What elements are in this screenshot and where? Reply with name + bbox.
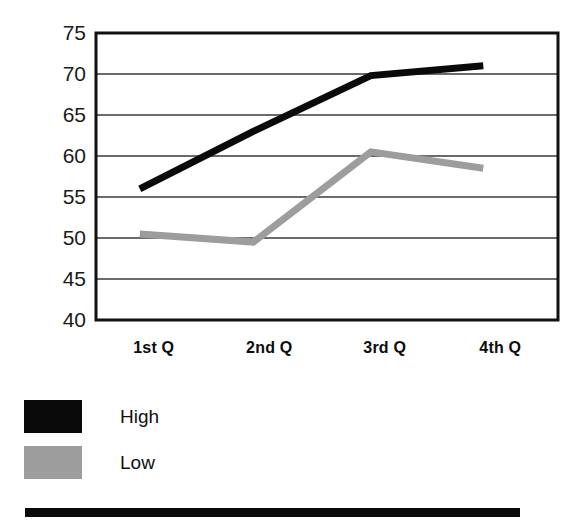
x-tick-2nd-q: 2nd Q bbox=[212, 337, 328, 365]
chart-legend: High Low bbox=[24, 393, 324, 485]
legend-swatch-high-icon bbox=[24, 400, 82, 433]
legend-swatch-low-icon bbox=[24, 446, 82, 479]
legend-label-high: High bbox=[120, 407, 159, 426]
legend-item-high: High bbox=[24, 393, 324, 439]
x-tick-1st-q: 1st Q bbox=[96, 337, 212, 365]
x-tick-3rd-q: 3rd Q bbox=[327, 337, 443, 365]
chart-figure: 75 70 65 60 55 50 45 40 1st Q 2nd Q 3rd … bbox=[0, 0, 588, 530]
x-axis-tick-labels: 1st Q 2nd Q 3rd Q 4th Q bbox=[96, 337, 558, 365]
x-tick-4th-q: 4th Q bbox=[443, 337, 559, 365]
bottom-rule bbox=[25, 508, 520, 517]
series-line-high bbox=[140, 66, 484, 189]
legend-label-low: Low bbox=[120, 453, 155, 472]
legend-item-low: Low bbox=[24, 439, 324, 485]
